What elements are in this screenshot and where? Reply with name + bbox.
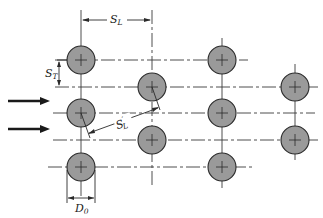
arrow-right-icon xyxy=(40,125,50,133)
tube-bank-diagram: SL ST S′L D0 xyxy=(0,0,323,218)
vertical-centerlines xyxy=(81,10,295,196)
flow-arrows xyxy=(8,97,50,133)
tube-diameter-label: D0 xyxy=(74,202,89,216)
transverse-pitch-label: ST xyxy=(45,67,59,81)
arrow-right-icon xyxy=(40,97,50,105)
transverse-pitch-dimension: ST xyxy=(45,60,67,86)
longitudinal-pitch-dimension: SL xyxy=(82,13,151,27)
tubes xyxy=(67,46,309,181)
tube-center-marks xyxy=(75,54,301,173)
